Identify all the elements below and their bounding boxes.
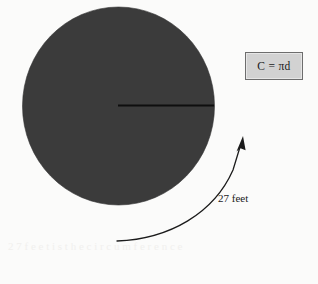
circle-diagram: [0, 0, 318, 284]
formula-box: C = πd: [245, 52, 303, 80]
arrowhead-icon: [237, 136, 246, 152]
figure-page: C = πd 27 feet 2 7 f e e t i s t h e c i…: [0, 0, 318, 284]
formula-text: C = πd: [257, 60, 290, 72]
measurement-label: 27 feet: [218, 192, 248, 204]
